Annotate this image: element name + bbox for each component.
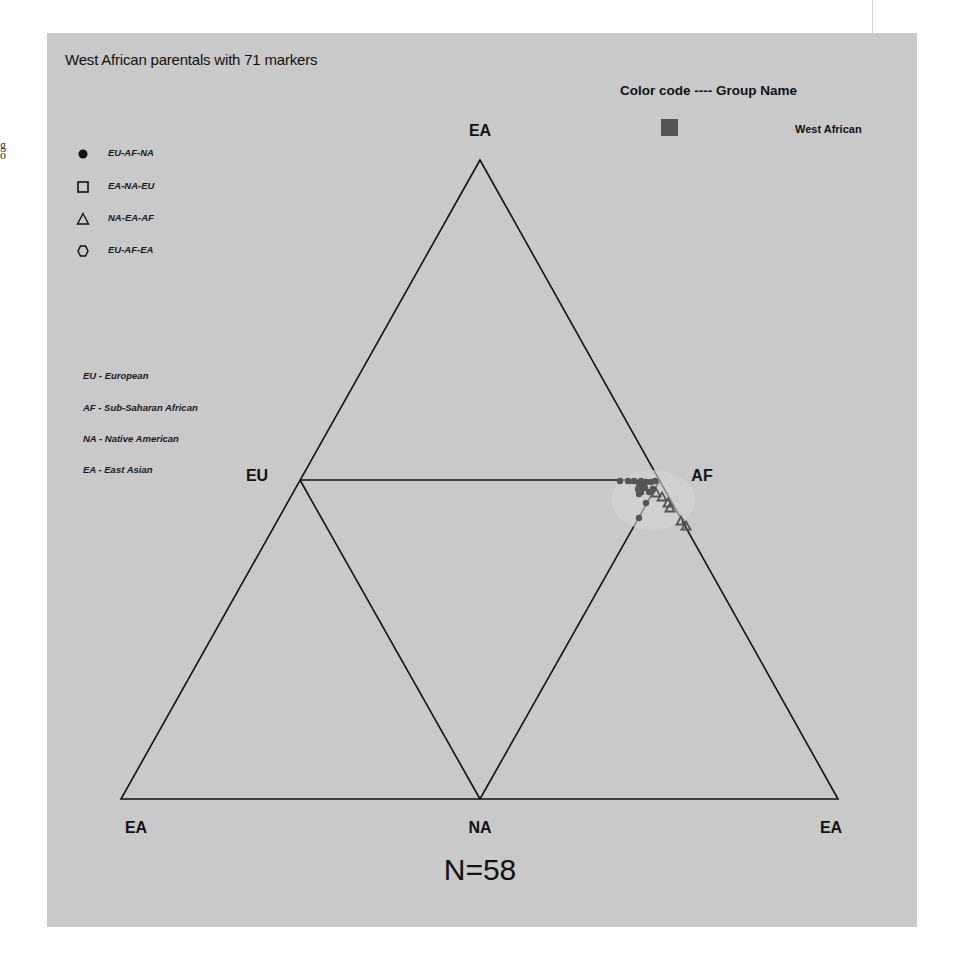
margin-hairline <box>872 0 873 36</box>
vertex-label-eu: EU <box>246 467 268 485</box>
vertex-label-af: AF <box>691 467 712 485</box>
group-color-swatch <box>661 119 678 136</box>
open-triangle-icon <box>75 211 91 227</box>
chart-panel: West African parentals with 71 markers C… <box>47 33 917 927</box>
data-point <box>643 500 649 506</box>
shape-legend-item: NA-EA-AF <box>75 211 235 227</box>
data-point <box>636 515 642 521</box>
shape-legend-item: EU-AF-EA <box>75 243 235 259</box>
vertex-label-bottom-left-ea: EA <box>125 819 147 837</box>
shape-legend-item: EA-NA-EU <box>75 179 235 195</box>
sample-size-label: N=58 <box>444 853 517 887</box>
shape-legend-label: EU-AF-NA <box>108 147 154 158</box>
vertex-label-na: NA <box>468 819 491 837</box>
ternary-plot <box>47 33 917 927</box>
shape-legend-label: EA-NA-EU <box>108 180 154 191</box>
cropped-margin-text: g o <box>0 140 14 160</box>
vertex-label-bottom-right-ea: EA <box>820 819 842 837</box>
abbreviation-af: AF - Sub-Saharan African <box>83 402 198 413</box>
chart-title: West African parentals with 71 markers <box>65 51 317 68</box>
filled-circle-icon <box>75 146 91 162</box>
abbreviation-na: NA - Native American <box>83 433 179 444</box>
shape-legend-label: NA-EA-AF <box>108 212 154 223</box>
data-points <box>611 470 695 530</box>
eu-na-edge <box>300 480 480 799</box>
open-hexagon-icon <box>75 243 91 259</box>
shape-legend-item: EU-AF-NA <box>75 146 235 162</box>
shape-legend-label: EU-AF-EA <box>108 244 153 255</box>
group-legend-header: Color code ---- Group Name <box>620 83 797 98</box>
abbreviation-eu: EU - European <box>83 370 148 381</box>
vertex-label-top-ea: EA <box>469 122 491 140</box>
open-square-icon <box>75 179 91 195</box>
af-na-edge <box>480 480 660 799</box>
group-name-label: West African <box>795 123 862 135</box>
abbreviation-ea: EA - East Asian <box>83 464 153 475</box>
data-point <box>617 478 623 484</box>
